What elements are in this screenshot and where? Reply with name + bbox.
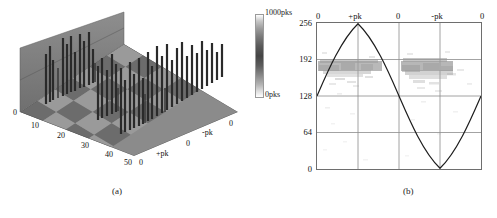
ytick-128: 128	[286, 91, 312, 101]
panel-a-svg	[6, 8, 244, 168]
ytick-64: 64	[286, 127, 312, 137]
xtick-pluspk: +pk	[344, 11, 366, 21]
axis-a-depth-tick-40: 40	[105, 150, 113, 159]
colorbar-min-label: 0pks	[265, 90, 280, 99]
ytick-256: 256	[286, 18, 312, 28]
axis-a-depth-tick-10: 10	[31, 121, 39, 130]
density-cloud-right	[401, 51, 472, 157]
axis-a-phase-tick-minuspk: -pk	[202, 128, 213, 137]
xtick-0-mid: 0	[392, 11, 404, 21]
panel-a-3d-bar-plot: 0 10 20 30 40 50 0 +pk 0 -pk 0 (a)	[0, 0, 248, 218]
panel-a-scene	[6, 8, 244, 168]
panel-a-caption: (a)	[112, 186, 122, 196]
colorbar-gradient	[255, 14, 264, 98]
axis-a-phase-tick-0-left: 0	[139, 158, 143, 167]
figure-root: 0 10 20 30 40 50 0 +pk 0 -pk 0 (a) 1000p…	[0, 0, 497, 218]
ytick-0: 0	[286, 164, 312, 174]
axis-a-phase-tick-0-right: 0	[229, 119, 233, 128]
xtick-0-left: 0	[312, 11, 324, 21]
panel-b-svg	[317, 23, 481, 169]
axis-a-phase-tick-pluspk: +pk	[156, 149, 169, 158]
axis-a-depth-tick-50: 50	[124, 158, 132, 167]
colorbar-max-label: 1000pks	[265, 8, 292, 17]
panel-b-caption: (b)	[403, 186, 414, 196]
density-cloud-left	[318, 52, 382, 161]
panel-b-density-plot: 1000pks 0pks	[248, 0, 497, 218]
axis-a-phase-tick-0-mid: 0	[186, 139, 190, 148]
axis-a-depth-tick-0: 0	[13, 108, 17, 117]
xtick-0-right: 0	[476, 11, 488, 21]
axis-a-depth-tick-30: 30	[81, 141, 89, 150]
axis-a-depth-tick-20: 20	[57, 131, 65, 140]
xtick-minuspk: -pk	[426, 11, 448, 21]
panel-b-plot-area	[316, 22, 482, 170]
ytick-192: 192	[286, 54, 312, 64]
